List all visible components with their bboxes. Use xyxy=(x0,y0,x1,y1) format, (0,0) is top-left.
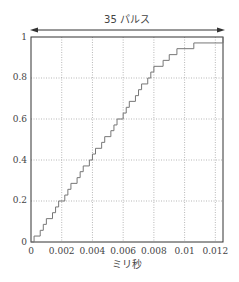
chart-title: 35 パルス xyxy=(104,14,150,25)
y-tick-label: 0.4 xyxy=(13,155,28,165)
x-tick-label: 0.006 xyxy=(110,246,136,256)
x-axis-tick-labels: 0 0.002 0.004 0.006 0.008 0.01 0.012 xyxy=(28,246,228,256)
step-chart: 35 パルス 0 0.2 0.4 0.6 0.8 1 0 0.002 0.004… xyxy=(0,0,239,282)
y-tick-label: 0.6 xyxy=(13,114,28,124)
x-tick-label: 0.01 xyxy=(175,246,195,256)
pulse-span-arrow xyxy=(30,28,225,33)
plot-frame xyxy=(31,37,223,242)
step-series-line xyxy=(31,37,223,242)
y-tick-label: 1 xyxy=(21,32,27,42)
x-tick-label: 0.002 xyxy=(49,246,75,256)
gridlines xyxy=(31,37,223,242)
y-axis-tick-labels: 0 0.2 0.4 0.6 0.8 1 xyxy=(13,32,28,247)
y-tick-label: 0.2 xyxy=(13,195,27,205)
x-tick-label: 0 xyxy=(28,246,34,256)
x-axis-label: ミリ秒 xyxy=(112,258,142,270)
x-tick-label: 0.008 xyxy=(141,246,167,256)
x-tick-label: 0.012 xyxy=(202,246,228,256)
y-tick-label: 0.8 xyxy=(13,72,28,82)
x-tick-label: 0.004 xyxy=(80,246,106,256)
y-tick-label: 0 xyxy=(21,237,27,247)
